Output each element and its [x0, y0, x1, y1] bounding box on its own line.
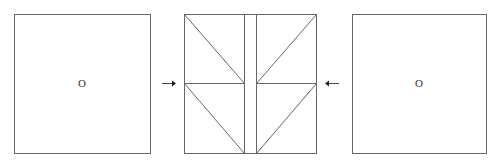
right-square-label: O — [415, 77, 423, 89]
diagonal-crease — [257, 84, 317, 154]
left-square: O — [15, 15, 151, 154]
diagram-canvas: O O — [0, 0, 501, 164]
right-square: O — [353, 15, 487, 154]
diagonal-crease — [257, 15, 317, 84]
diagonal-crease — [185, 15, 245, 84]
diagonal-crease — [185, 84, 245, 154]
arrow-left-icon — [325, 81, 339, 87]
middle-square — [185, 15, 317, 154]
left-square-label: O — [78, 77, 86, 89]
arrow-right-icon — [162, 81, 176, 87]
